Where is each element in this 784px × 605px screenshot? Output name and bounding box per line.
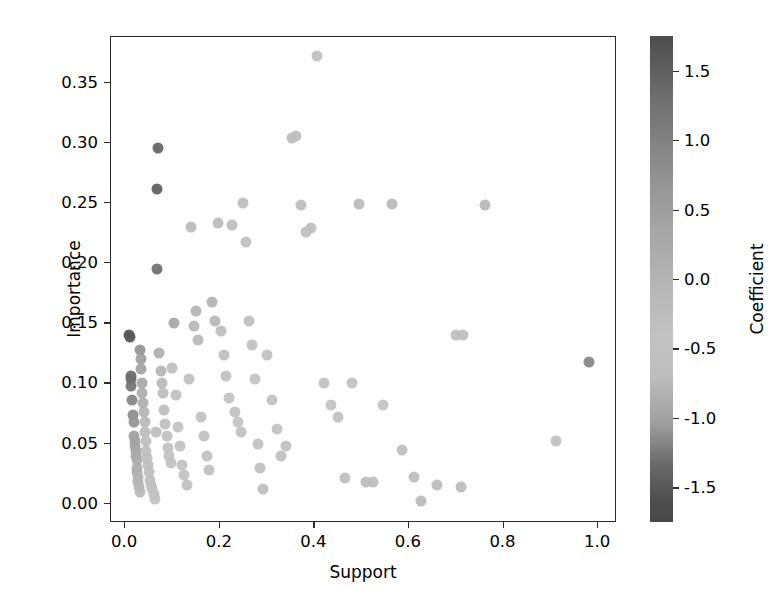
scatter-point xyxy=(291,130,302,141)
scatter-point xyxy=(415,496,426,507)
y-tick-label: 0.20 xyxy=(5,253,98,272)
scatter-point xyxy=(201,450,212,461)
y-tick xyxy=(104,322,110,323)
y-tick xyxy=(104,382,110,383)
y-tick-label: 0.05 xyxy=(5,433,98,452)
scatter-point xyxy=(198,431,209,442)
scatter-point xyxy=(280,441,291,452)
scatter-point xyxy=(128,416,139,427)
x-tick xyxy=(313,522,314,528)
x-tick-label: 0.6 xyxy=(395,532,421,551)
scatter-point xyxy=(368,477,379,488)
scatter-point xyxy=(550,436,561,447)
scatter-point xyxy=(311,51,322,62)
colorbar-tick xyxy=(673,418,679,419)
x-tick-label: 1.0 xyxy=(584,532,610,551)
scatter-point xyxy=(224,392,235,403)
scatter-point xyxy=(332,412,343,423)
scatter-point xyxy=(266,395,277,406)
x-tick-label: 0.0 xyxy=(111,532,137,551)
scatter-point xyxy=(318,378,329,389)
scatter-point xyxy=(158,388,169,399)
x-tick xyxy=(124,522,125,528)
x-tick xyxy=(597,522,598,528)
scatter-point xyxy=(396,444,407,455)
colorbar-tick-label: 0.5 xyxy=(684,200,710,219)
scatter-point xyxy=(354,199,365,210)
scatter-point xyxy=(221,371,232,382)
scatter-point xyxy=(238,198,249,209)
scatter-figure: 0.00.20.40.60.81.00.000.050.100.150.200.… xyxy=(0,0,784,605)
y-tick xyxy=(104,443,110,444)
x-tick xyxy=(219,522,220,528)
y-axis-label: Importance xyxy=(64,209,84,369)
y-tick-label: 0.10 xyxy=(5,373,98,392)
scatter-point xyxy=(150,426,161,437)
scatter-point xyxy=(227,219,238,230)
scatter-point xyxy=(193,335,204,346)
colorbar-tick xyxy=(673,140,679,141)
scatter-point xyxy=(151,264,162,275)
y-tick-label: 0.25 xyxy=(5,193,98,212)
scatter-point xyxy=(271,424,282,435)
scatter-point xyxy=(195,412,206,423)
scatter-point xyxy=(167,362,178,373)
scatter-point xyxy=(241,236,252,247)
scatter-point xyxy=(134,486,145,497)
scatter-point xyxy=(218,349,229,360)
y-tick-label: 0.15 xyxy=(5,313,98,332)
scatter-point xyxy=(149,493,160,504)
scatter-point xyxy=(191,306,202,317)
scatter-point xyxy=(408,472,419,483)
scatter-point xyxy=(160,419,171,430)
scatter-point xyxy=(377,400,388,411)
scatter-point xyxy=(583,356,594,367)
colorbar-tick xyxy=(673,279,679,280)
scatter-point xyxy=(340,473,351,484)
y-tick xyxy=(104,262,110,263)
scatter-point xyxy=(136,364,147,375)
scatter-point xyxy=(127,395,138,406)
scatter-point xyxy=(305,223,316,234)
scatter-point xyxy=(458,330,469,341)
y-tick xyxy=(104,202,110,203)
colorbar-tick-label: -1.5 xyxy=(684,478,716,497)
colorbar-tick-label: 1.5 xyxy=(684,61,710,80)
scatter-point xyxy=(252,438,263,449)
scatter-point xyxy=(152,183,163,194)
y-tick-label: 0.00 xyxy=(5,493,98,512)
y-tick xyxy=(104,142,110,143)
scatter-point xyxy=(173,421,184,432)
colorbar xyxy=(650,36,673,522)
colorbar-tick-label: -0.5 xyxy=(684,339,716,358)
scatter-point xyxy=(235,426,246,437)
colorbar-label: Coefficient xyxy=(747,204,767,374)
x-tick-label: 0.8 xyxy=(489,532,515,551)
scatter-point xyxy=(455,481,466,492)
scatter-point xyxy=(244,315,255,326)
colorbar-gradient xyxy=(650,36,673,522)
scatter-point xyxy=(124,331,135,342)
scatter-point xyxy=(171,390,182,401)
scatter-point xyxy=(184,373,195,384)
colorbar-tick xyxy=(673,210,679,211)
x-tick xyxy=(408,522,409,528)
x-tick xyxy=(503,522,504,528)
scatter-point xyxy=(207,296,218,307)
scatter-point xyxy=(161,431,172,442)
scatter-point xyxy=(325,400,336,411)
y-tick-label: 0.30 xyxy=(5,132,98,151)
scatter-point xyxy=(296,200,307,211)
scatter-point xyxy=(158,404,169,415)
scatter-point xyxy=(387,199,398,210)
scatter-point xyxy=(169,318,180,329)
scatter-point xyxy=(126,380,137,391)
scatter-point xyxy=(262,349,273,360)
scatter-point xyxy=(347,378,358,389)
y-tick xyxy=(104,503,110,504)
x-tick-label: 0.4 xyxy=(300,532,326,551)
plot-area xyxy=(110,36,616,522)
scatter-point xyxy=(186,222,197,233)
colorbar-tick-label: 1.0 xyxy=(684,131,710,150)
scatter-point xyxy=(276,450,287,461)
